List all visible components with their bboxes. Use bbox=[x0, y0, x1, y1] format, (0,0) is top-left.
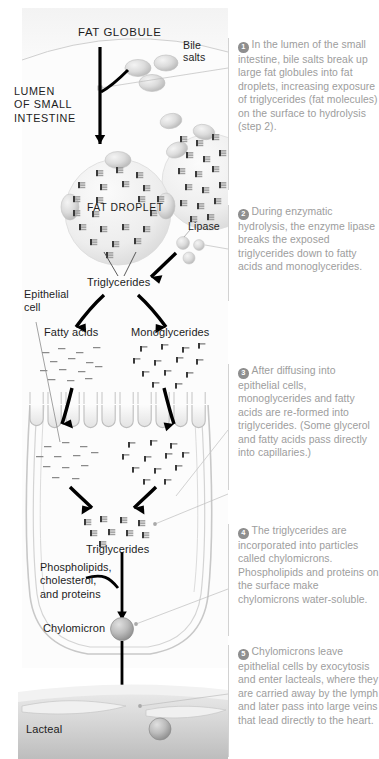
step-2-text: During enzymatic hydrolysis, the enzyme … bbox=[238, 206, 375, 272]
step-5-body: 5Chylomicrons leave epithelial cells by … bbox=[238, 645, 379, 727]
step-2-body: 2During enzymatic hydrolysis, the enzyme… bbox=[238, 205, 379, 274]
label-triglycerides-lower: Triglycerides bbox=[86, 543, 149, 555]
diagram-illustration: FAT GLOBULE Bile salts LUMEN OF SMALL IN… bbox=[0, 0, 228, 759]
step-3-badge: 3 bbox=[238, 368, 249, 379]
step-2: 2During enzymatic hydrolysis, the enzyme… bbox=[228, 205, 379, 301]
step-callout-column: 1In the lumen of the small intestine, bi… bbox=[228, 0, 379, 759]
step-3: 3After diffusing into epithelial cells, … bbox=[228, 364, 379, 490]
step-1-body: 1In the lumen of the small intestine, bi… bbox=[238, 38, 379, 134]
chylomicron-particle bbox=[111, 618, 134, 641]
step-1-text: In the lumen of the small intestine, bil… bbox=[238, 39, 378, 132]
step-5: 5Chylomicrons leave epithelial cells by … bbox=[228, 645, 379, 757]
step-5-badge: 5 bbox=[238, 649, 249, 660]
lacteal-region bbox=[18, 684, 228, 759]
step-3-body: 3After diffusing into epithelial cells, … bbox=[238, 364, 379, 460]
label-lipase: Lipase bbox=[188, 221, 220, 233]
label-lumen-of-small-intestine: LUMEN OF SMALL INTESTINE bbox=[14, 85, 76, 125]
step-1-badge: 1 bbox=[238, 42, 249, 53]
label-monoglycerides: Monoglycerides bbox=[131, 326, 209, 338]
step-4-badge: 4 bbox=[238, 528, 249, 539]
step-1: 1In the lumen of the small intestine, bi… bbox=[228, 38, 379, 190]
label-fat-droplet: FAT DROPLET bbox=[87, 202, 164, 214]
step-2-badge: 2 bbox=[238, 209, 249, 220]
label-lacteal: Lacteal bbox=[26, 723, 62, 735]
step-4-body: 4The triglycerides are incorporated into… bbox=[238, 524, 379, 606]
step-4: 4The triglycerides are incorporated into… bbox=[228, 524, 379, 636]
label-fat-globule: FAT GLOBULE bbox=[78, 26, 161, 39]
label-phospholipids-cholesterol-proteins: Phospholipids, cholesterol, and proteins bbox=[40, 561, 112, 601]
label-chylomicron: Chylomicron bbox=[43, 622, 105, 634]
figure-root: FAT GLOBULE Bile salts LUMEN OF SMALL IN… bbox=[0, 0, 379, 759]
step-5-text: Chylomicrons leave epithelial cells by e… bbox=[238, 646, 378, 726]
label-epithelial-cell: Epithelial cell bbox=[24, 288, 69, 314]
step-3-text: After diffusing into epithelial cells, m… bbox=[238, 365, 370, 458]
label-triglycerides-upper: Triglycerides bbox=[87, 276, 150, 288]
step-4-text: The triglycerides are incorporated into … bbox=[238, 525, 379, 605]
label-fatty-acids: Fatty acids bbox=[44, 326, 98, 338]
label-bile-salts: Bile salts bbox=[183, 40, 205, 64]
